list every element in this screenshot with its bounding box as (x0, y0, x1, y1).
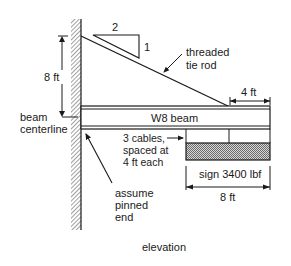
slope-triangle (93, 35, 139, 58)
offset-dimension (230, 97, 270, 105)
pinned-end-leader (86, 134, 112, 183)
support-label-line2: pinned (115, 199, 148, 211)
cables-label-line1: 3 cables, (123, 132, 165, 144)
centerline-label-line2: centerline (20, 123, 68, 135)
tie-rod-label-line2: tie rod (186, 59, 217, 71)
wall (71, 19, 81, 230)
support-label-line3: end (115, 211, 133, 223)
height-dim-label: 8 ft (44, 71, 59, 83)
beam-label: W8 beam (151, 112, 198, 124)
sign-support-diagram: 2 1 threaded tie rod 8 ft 4 ft W8 beam b… (0, 0, 291, 266)
support-label-line1: assume (115, 187, 154, 199)
slope-rise-label: 1 (144, 41, 150, 53)
slope-run-label: 2 (112, 21, 118, 33)
sign-panel (186, 143, 270, 160)
sign-label: sign 3400 lbf (199, 168, 262, 180)
view-label: elevation (142, 241, 186, 253)
sign-width-label: 8 ft (220, 191, 235, 203)
centerline-label-line1: beam (20, 111, 48, 123)
tie-rod-label-line1: threaded (186, 46, 229, 58)
cables (186, 129, 270, 143)
tie-rod-leader (164, 54, 182, 72)
cables-label-line3: 4 ft each (123, 156, 163, 168)
cables-label-line2: spaced at (123, 144, 169, 156)
offset-dim-label: 4 ft (241, 86, 256, 98)
